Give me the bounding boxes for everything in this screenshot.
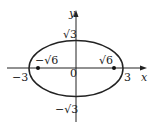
y-intercept-neg-label: −√3: [55, 103, 78, 116]
y-axis-label: y: [68, 7, 76, 20]
right-focus-label: √6: [99, 54, 113, 67]
x-intercept-neg-label: −3: [12, 71, 28, 84]
origin-label: 0: [70, 67, 77, 80]
x-axis-arrow-icon: [140, 66, 147, 71]
ellipse-diagram: y x 0 √3 −√3 −3 3 −√6 √6: [0, 0, 151, 134]
x-axis-label: x: [141, 71, 148, 84]
left-focus-label: −√6: [35, 54, 58, 67]
x-intercept-pos-label: 3: [124, 71, 131, 84]
y-intercept-pos-label: √3: [63, 28, 77, 41]
